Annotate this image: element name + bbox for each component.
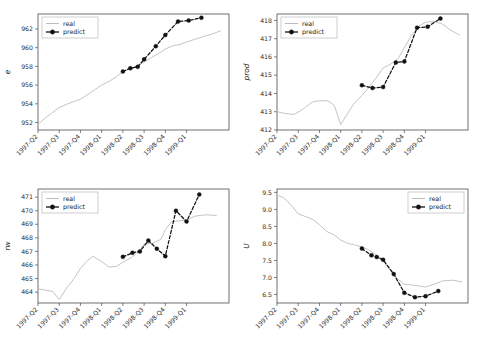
series-predict-marker <box>128 66 132 70</box>
y-axis-label: rw <box>3 241 12 251</box>
series-predict-marker <box>426 25 430 29</box>
series-predict-marker <box>381 85 385 89</box>
series-predict-marker <box>360 83 364 87</box>
y-tick-label: 470 <box>21 207 33 214</box>
y-axis-label: U <box>242 243 251 249</box>
legend-label-real: real <box>429 195 441 202</box>
x-tick-label: 1998-Q3 <box>360 133 384 157</box>
y-tick-label: 412 <box>260 126 272 133</box>
y-tick-label: 7.0 <box>262 274 272 281</box>
x-tick-label: 1998-Q4 <box>381 306 405 330</box>
y-tick-label: 465 <box>21 275 33 282</box>
legend-predict-marker <box>289 30 293 34</box>
x-tick-label: 1998-Q3 <box>360 306 384 330</box>
x-tick-label: 1997-Q4 <box>57 133 81 157</box>
series-predict-marker <box>436 289 440 293</box>
series-predict-marker <box>375 255 379 259</box>
figure-canvas: 9529549569589609621997-Q21997-Q31997-Q41… <box>0 0 478 350</box>
y-tick-label: 466 <box>21 261 33 268</box>
series-predict-marker <box>197 192 201 196</box>
x-tick-label: 1998-Q4 <box>142 133 166 157</box>
chart-panel-rw: 4644654664674684694704711997-Q21997-Q319… <box>0 177 239 350</box>
legend-predict-marker <box>50 30 54 34</box>
x-tick-label: 1998-Q1 <box>78 133 102 157</box>
y-tick-label: 414 <box>260 90 272 97</box>
legend-predict-marker <box>50 205 54 209</box>
series-predict-marker <box>392 272 396 276</box>
series-predict-marker <box>154 44 158 48</box>
x-tick-label: 1997-Q4 <box>57 306 81 330</box>
x-tick-label: 1998-Q2 <box>100 133 124 157</box>
y-tick-label: 416 <box>260 53 272 60</box>
y-tick-label: 960 <box>21 44 33 51</box>
series-predict-marker <box>142 57 146 61</box>
series-real-line <box>38 31 221 125</box>
series-predict-marker <box>121 255 125 259</box>
x-tick-label: 1997-Q2 <box>15 306 39 330</box>
series-predict-marker <box>424 294 428 298</box>
x-tick-label: 1999-Q1 <box>402 306 426 330</box>
y-tick-label: 464 <box>21 288 33 295</box>
x-tick-label: 1998-Q1 <box>78 306 102 330</box>
series-predict-marker <box>402 60 406 64</box>
x-tick-label: 1998-Q2 <box>339 133 363 157</box>
y-tick-label: 418 <box>260 17 272 24</box>
legend-predict-marker <box>416 205 420 209</box>
series-predict-marker <box>163 33 167 37</box>
y-tick-label: 6.5 <box>262 291 272 298</box>
series-predict-marker <box>413 295 417 299</box>
series-predict-marker <box>155 247 159 251</box>
y-tick-label: 417 <box>260 35 272 42</box>
chart-panel-prod: 4124134144154164174181997-Q21997-Q31997-… <box>239 2 478 177</box>
x-tick-label: 1997-Q4 <box>296 133 320 157</box>
legend-label-real: real <box>63 20 75 27</box>
x-tick-label: 1998-Q2 <box>339 306 363 330</box>
y-tick-label: 9.0 <box>262 206 272 213</box>
x-tick-label: 1999-Q1 <box>163 306 187 330</box>
plot-prod: 4124134144154164174181997-Q21997-Q31997-… <box>239 2 478 177</box>
series-predict-marker <box>176 19 180 23</box>
chart-legend: realpredict <box>42 192 98 213</box>
series-real-line <box>38 215 216 300</box>
series-predict-marker <box>185 220 189 224</box>
y-tick-label: 471 <box>21 193 33 200</box>
series-predict-marker <box>402 291 406 295</box>
x-tick-label: 1997-Q4 <box>296 306 320 330</box>
series-predict-marker <box>371 86 375 90</box>
chart-legend: realpredict <box>281 17 337 38</box>
x-tick-label: 1997-Q3 <box>275 133 299 157</box>
series-predict-marker <box>415 26 419 30</box>
x-tick-label: 1998-Q4 <box>381 133 405 157</box>
y-tick-label: 467 <box>21 248 33 255</box>
x-tick-label: 1998-Q2 <box>100 306 124 330</box>
y-tick-label: 8.0 <box>262 240 272 247</box>
series-predict-marker <box>130 251 134 255</box>
plot-rw: 4644654664674684694704711997-Q21997-Q319… <box>0 177 239 350</box>
y-tick-label: 958 <box>21 63 33 70</box>
chart-legend: realpredict <box>408 192 464 213</box>
y-tick-label: 469 <box>21 220 33 227</box>
x-tick-label: 1998-Q1 <box>317 306 341 330</box>
plot-U: 6.57.07.58.08.59.09.51997-Q21997-Q31997-… <box>239 177 478 350</box>
series-predict-marker <box>369 253 373 257</box>
series-predict-marker <box>136 65 140 69</box>
x-tick-label: 1997-Q2 <box>254 133 278 157</box>
series-predict-line <box>123 18 202 72</box>
series-predict-marker <box>138 249 142 253</box>
legend-label-predict: predict <box>63 203 86 211</box>
legend-label-predict: predict <box>429 203 452 211</box>
x-tick-label: 1998-Q3 <box>121 306 145 330</box>
series-predict-marker <box>187 19 191 23</box>
x-tick-label: 1997-Q2 <box>15 133 39 157</box>
x-tick-label: 1997-Q3 <box>275 306 299 330</box>
series-predict-marker <box>360 247 364 251</box>
y-tick-label: 9.5 <box>262 189 272 196</box>
y-tick-label: 952 <box>21 119 33 126</box>
chart-panel-e: 9529549569589609621997-Q21997-Q31997-Q41… <box>0 2 239 177</box>
y-axis-label: e <box>3 69 12 74</box>
legend-label-predict: predict <box>63 28 86 36</box>
y-axis-label: prod <box>242 63 251 81</box>
y-tick-label: 415 <box>260 71 272 78</box>
y-tick-label: 956 <box>21 81 33 88</box>
chart-panel-U: 6.57.07.58.08.59.09.51997-Q21997-Q31997-… <box>239 177 478 350</box>
